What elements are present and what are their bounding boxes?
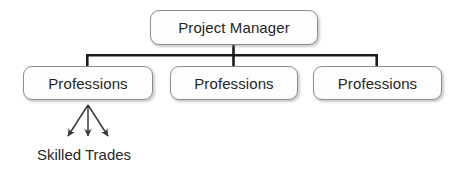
node-professions-1[interactable]: Professions xyxy=(23,66,153,100)
node-project-manager[interactable]: Project Manager xyxy=(150,10,318,45)
leaf-skilled-trades-label: Skilled Trades xyxy=(28,147,140,162)
node-project-manager-label: Project Manager xyxy=(178,20,290,35)
org-chart-diagram: Project Manager Professions Professions … xyxy=(0,0,461,174)
node-professions-2-label: Professions xyxy=(194,76,273,91)
node-professions-3-label: Professions xyxy=(338,76,417,91)
node-professions-2[interactable]: Professions xyxy=(170,66,298,100)
arrow-left xyxy=(68,105,88,136)
arrow-right xyxy=(88,105,108,136)
node-professions-3[interactable]: Professions xyxy=(313,66,442,100)
node-professions-1-label: Professions xyxy=(48,76,127,91)
